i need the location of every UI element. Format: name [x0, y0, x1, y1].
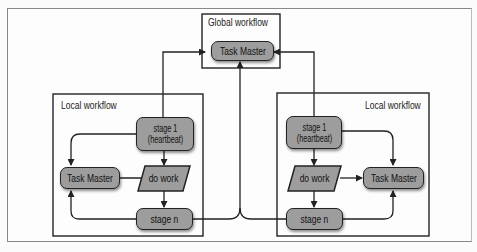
right-stage-n: stage n [286, 208, 343, 230]
right-stage-1: stage 1(heartbeat) [286, 116, 342, 149]
right-local-workflow-title: Local workflow [365, 100, 421, 111]
left-local-workflow-title: Local workflow [61, 100, 117, 111]
connectors [0, 0, 477, 252]
right-do-work: do work [288, 166, 341, 191]
global-task-master: Task Master [211, 41, 274, 61]
global-workflow-title: Global workflow [208, 17, 268, 28]
left-stage-1: stage 1(heartbeat) [136, 117, 194, 151]
left-stage-n: stage n [136, 208, 193, 230]
right-task-master: Task Master [363, 167, 424, 189]
left-do-work: do work [138, 166, 190, 191]
left-task-master: Task Master [60, 167, 120, 189]
